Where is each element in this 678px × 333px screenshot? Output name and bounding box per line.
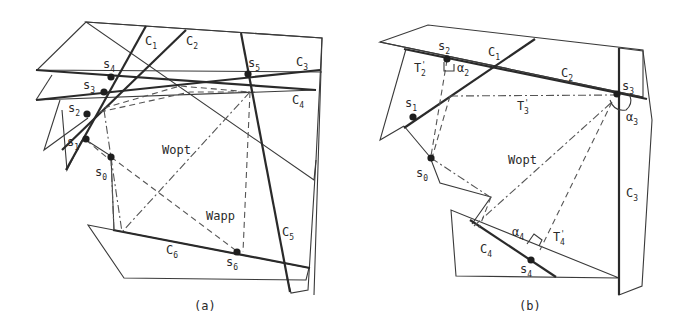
label-c1-b: C1 <box>488 45 500 62</box>
point-s3-b <box>613 90 620 97</box>
point-s5-a <box>244 70 251 77</box>
label-s0-a: s0 <box>95 165 107 182</box>
panel-a: C1 C2 C3 C4 C5 C6 s0 s1 s2 s3 s4 s5 s6 W… <box>36 22 322 313</box>
label-alpha3: α3 <box>626 110 638 127</box>
arc-alpha3 <box>610 96 631 110</box>
strip-c5-a <box>287 160 316 293</box>
diagram-canvas: C1 C2 C3 C4 C5 C6 s0 s1 s2 s3 s4 s5 s6 W… <box>0 0 678 333</box>
label-s6-a: s6 <box>226 255 238 272</box>
s1-s0-link-a <box>86 140 114 230</box>
label-s4-a: s4 <box>103 57 115 74</box>
polygon-c6-a <box>88 225 309 280</box>
path-wapp-5 <box>86 140 110 160</box>
caption-a: (a) <box>194 299 216 313</box>
label-c3-b: C3 <box>626 186 638 203</box>
label-s2-a: s2 <box>68 101 80 118</box>
point-s2-a <box>83 110 90 117</box>
point-s2-b <box>443 55 450 62</box>
path-s0-c1-b <box>432 96 450 158</box>
label-s3-a: s3 <box>83 78 95 95</box>
label-alpha4: α4 <box>512 225 524 242</box>
label-s5-a: s5 <box>248 56 260 73</box>
edge-c3-a <box>36 70 320 100</box>
label-c4-a: C4 <box>292 93 304 110</box>
label-c1-a: C1 <box>145 34 157 51</box>
label-t3: T'3 <box>517 99 529 116</box>
label-alpha2: α2 <box>457 61 469 78</box>
label-s1-a: s1 <box>67 135 79 152</box>
outline-right-a <box>86 22 322 295</box>
label-t2: T'2 <box>414 61 426 78</box>
path-wapp-4 <box>243 92 250 252</box>
polygon-c4-b <box>451 210 619 278</box>
label-c3-a: C3 <box>296 55 308 72</box>
label-wopt-a: Wopt <box>162 143 191 157</box>
label-c5-a: C5 <box>282 225 294 242</box>
polygon-left-b <box>380 49 406 140</box>
point-s4-a <box>107 73 114 80</box>
plane-c4-edge-a <box>36 75 52 100</box>
point-s1-a <box>82 135 89 142</box>
point-s0-a <box>107 153 114 160</box>
path-t3-b <box>450 95 617 96</box>
label-s2-b: s2 <box>438 39 450 56</box>
label-s1-b: s1 <box>405 96 417 113</box>
point-s3-a <box>100 88 107 95</box>
panel-b: C1 C2 C3 C4 s0 s1 s2 s3 s4 α2 α3 α4 T'2 … <box>380 25 652 313</box>
label-t4: T'4 <box>553 230 565 247</box>
edge-c2-b <box>404 49 647 99</box>
polygon-top-a <box>86 22 322 180</box>
point-s0-b <box>427 154 434 161</box>
path-wopt-s0-b <box>431 158 490 197</box>
label-c4-b: C4 <box>480 242 492 259</box>
path-wapp-3 <box>111 157 238 252</box>
plane-c3-a <box>37 22 322 72</box>
right-angle-alpha2 <box>444 62 454 71</box>
label-wopt-b: Wopt <box>508 153 537 167</box>
label-wapp-a: Wapp <box>206 209 235 223</box>
figure: C1 C2 C3 C4 C5 C6 s0 s1 s2 s3 s4 s5 s6 W… <box>0 0 678 333</box>
path-t4-b <box>540 102 612 250</box>
point-s1-b <box>409 113 416 120</box>
point-s4-b <box>527 256 534 263</box>
label-c2-a: C2 <box>186 34 198 51</box>
label-s0-b: s0 <box>416 166 428 183</box>
label-c6-a: C6 <box>166 243 178 260</box>
caption-b: (b) <box>519 299 541 313</box>
path-wopt-b <box>474 102 612 226</box>
point-s6-a <box>233 248 240 255</box>
